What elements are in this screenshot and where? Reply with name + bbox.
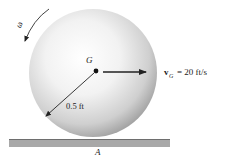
- contact-point-label: A: [94, 147, 101, 157]
- sphere: [29, 9, 157, 137]
- svg-text:G: G: [169, 73, 174, 79]
- svg-text:= 20 ft/s: = 20 ft/s: [177, 67, 208, 77]
- omega-label: ω: [13, 20, 24, 29]
- center-point: [94, 69, 99, 74]
- center-label: G: [86, 55, 93, 65]
- radius-label: 0.5 ft: [66, 101, 85, 111]
- velocity-label: v G = 20 ft/s: [164, 67, 208, 79]
- rolling-sphere-diagram: ω G v G = 20 ft/s 0.5 ft A: [0, 0, 227, 159]
- ground: [9, 139, 170, 147]
